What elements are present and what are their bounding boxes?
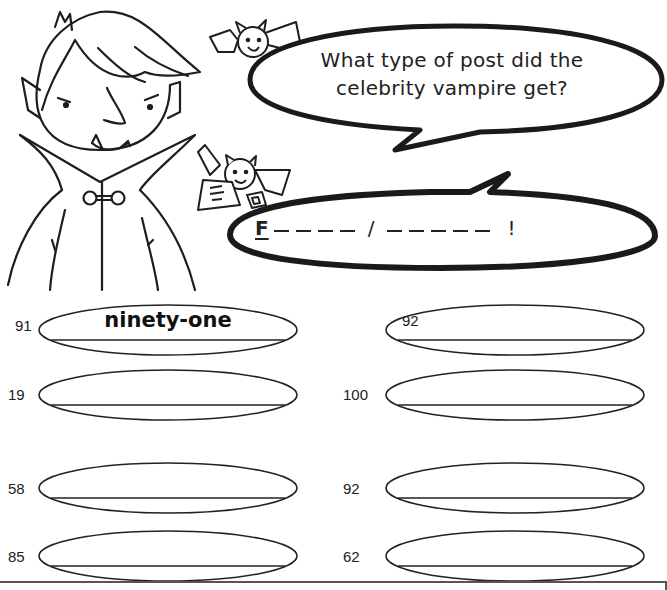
vampire-icon	[8, 12, 200, 290]
oval-shape	[37, 461, 299, 515]
oval-shape	[37, 529, 299, 583]
answer-oval[interactable]	[384, 529, 646, 583]
oval-shape	[384, 368, 646, 422]
answer-blank[interactable]	[274, 230, 289, 232]
exercise-number: 92	[402, 312, 419, 329]
exercise-number: 19	[8, 386, 25, 403]
answer-word: ninety-one	[37, 308, 299, 332]
answer-oval[interactable]	[384, 368, 646, 422]
answer-oval[interactable]	[37, 529, 299, 583]
answer-first-letter: F	[255, 216, 269, 240]
riddle-question-line1: What type of post did the	[282, 46, 622, 74]
exercise-number: 62	[343, 548, 360, 565]
riddle-question: What type of post did the celebrity vamp…	[282, 46, 622, 102]
riddle-answer: F / !	[255, 216, 615, 240]
answer-blank[interactable]	[431, 230, 446, 232]
oval-shape	[37, 368, 299, 422]
bottom-divider	[0, 581, 667, 583]
oval-shape	[384, 529, 646, 583]
exercise-number: 91	[15, 317, 32, 334]
exercise-number: 85	[8, 548, 25, 565]
oval-shape	[384, 461, 646, 515]
answer-blank[interactable]	[340, 230, 355, 232]
exercise-number: 92	[343, 480, 360, 497]
answer-blank[interactable]	[318, 230, 333, 232]
answer-blank[interactable]	[475, 230, 490, 232]
oval-shape	[384, 303, 646, 357]
answer-blank[interactable]	[453, 230, 468, 232]
answer-oval[interactable]: ninety-one	[37, 303, 299, 357]
illustration	[0, 0, 667, 300]
answer-blank[interactable]	[387, 230, 402, 232]
exercise-number: 100	[343, 386, 368, 403]
answer-blank[interactable]	[409, 230, 424, 232]
riddle-question-line2: celebrity vampire get?	[282, 74, 622, 102]
answer-blank[interactable]	[296, 230, 311, 232]
answer-oval[interactable]	[384, 461, 646, 515]
answer-separator: /	[368, 216, 375, 240]
answer-oval[interactable]	[37, 368, 299, 422]
answer-ending: !	[507, 216, 515, 240]
exercise-number: 58	[8, 480, 25, 497]
bat-with-letter-icon	[198, 145, 290, 210]
answer-oval[interactable]	[37, 461, 299, 515]
answer-oval[interactable]: 92	[384, 303, 646, 357]
